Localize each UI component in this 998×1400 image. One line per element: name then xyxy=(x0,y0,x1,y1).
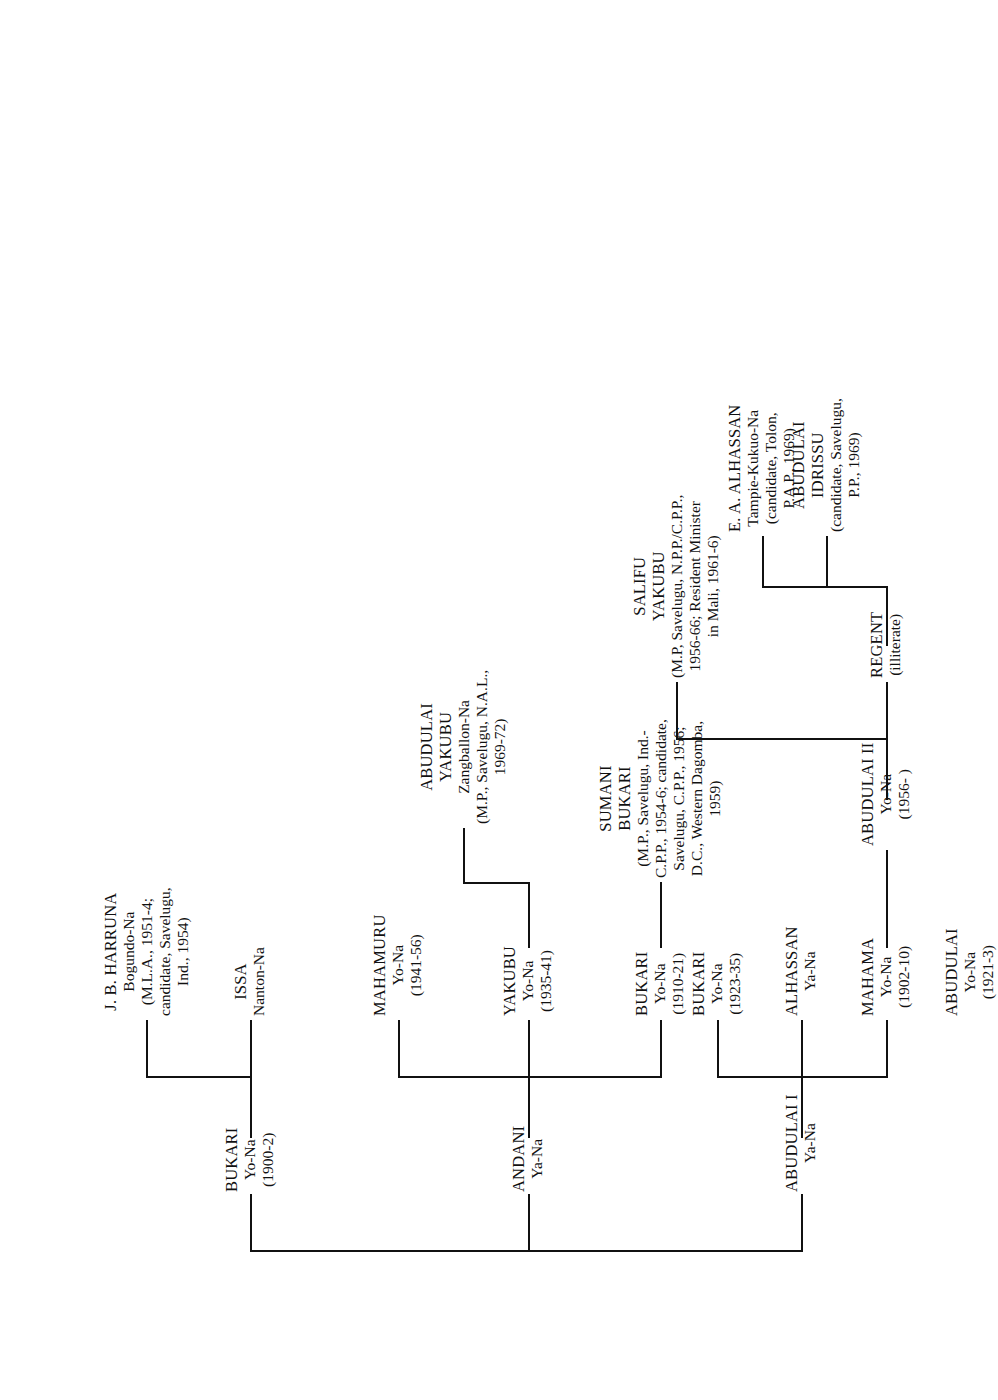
connector-andani-to-mahamuru xyxy=(398,1020,400,1078)
node-dates: (1910-21) xyxy=(670,952,688,1016)
node-salifu-yakubu: SALIFU YAKUBU (M.P, Savelugu, N.P.P./C.P… xyxy=(630,495,722,678)
node-name: REGENT xyxy=(867,612,886,678)
node-name: J. B. HARRUNA xyxy=(101,887,120,1016)
node-name: MAHAMA xyxy=(858,938,877,1016)
connector-abudulai-i-to-alhassan xyxy=(801,1020,803,1078)
node-dates: (1956- ) xyxy=(896,743,914,846)
node-title: Yo-Na xyxy=(878,743,896,846)
node-name: ABUDULAI xyxy=(417,670,436,824)
connector-regent-to-ea-alhassan xyxy=(762,536,764,588)
node-title: Yo-Na xyxy=(709,952,727,1016)
connector-andani-spine xyxy=(398,1076,662,1078)
connector-bukari1900-to-issa xyxy=(250,1020,252,1078)
connector-root-to-abudulai-i xyxy=(801,1194,803,1252)
node-title: Ya-Na xyxy=(802,1094,820,1192)
node-sumani-bukari: SUMANI BUKARI (M.P., Savelugu, Ind.-C.P.… xyxy=(596,719,724,878)
connector-regent-to-idrissu xyxy=(826,536,828,588)
node-name: SUMANI xyxy=(596,719,615,878)
node-detail: (M.P., Savelugu, N.A.L.,1969-72) xyxy=(473,670,509,824)
node-name-2: YAKUBU xyxy=(649,495,668,678)
node-title: Bogundo-Na xyxy=(120,887,138,1016)
connector-root-spine xyxy=(250,1250,802,1252)
node-jb-harruna: J. B. HARRUNA Bogundo-Na (M.L.A., 1951-4… xyxy=(101,887,192,1016)
node-bukari-1923: BUKARI Yo-Na (1923-35) xyxy=(689,952,744,1016)
node-dates: (1941-56) xyxy=(408,914,426,1016)
node-title: Yo-Na xyxy=(652,952,670,1016)
node-dates: (1921-3) xyxy=(980,928,998,1016)
node-title: Yo-Na xyxy=(962,928,980,1016)
node-name: BUKARI xyxy=(689,952,708,1016)
node-detail: (M.P, Savelugu, N.P.P./C.P.P.,1956-66; R… xyxy=(668,495,722,678)
node-abudulai-ii: ABUDULAI II Yo-Na (1956- ) xyxy=(858,743,913,846)
node-title: Ya-Na xyxy=(802,926,820,1016)
node-title: Yo-Na xyxy=(242,1128,260,1192)
node-abudulai-1921: ABUDULAI Yo-Na (1921-3) xyxy=(942,928,997,1016)
node-name-2: IDRISSU xyxy=(808,398,827,532)
node-abudulai-idrissu: ABUDULAI IDRISSU (candidate, Savelugu,P.… xyxy=(789,398,863,532)
node-title: Tampie-Kukuo-Na xyxy=(745,405,763,533)
node-name: ANDANI xyxy=(509,1126,528,1192)
connector-yakubu1935-out xyxy=(528,882,530,948)
node-andani: ANDANI Ya-Na xyxy=(509,1126,546,1192)
node-regent: REGENT (illiterate) xyxy=(867,612,904,678)
node-name-2: BUKARI xyxy=(615,719,634,878)
node-detail: (candidate, Tolon,P.A.P., 1969) xyxy=(763,405,799,533)
connector-bukari1900-spine xyxy=(146,1076,252,1078)
connector-regent-stem xyxy=(826,586,888,588)
connector-bukari1910-to-sumani xyxy=(660,882,662,948)
node-abudulai-i: ABUDULAI I Ya-Na xyxy=(782,1094,819,1192)
node-name: ALHASSAN xyxy=(782,926,801,1016)
connector-yakubu1935-drop xyxy=(463,882,530,884)
node-abudulai-yakubu: ABUDULAI YAKUBU Zangballon-Na (M.P., Sav… xyxy=(417,670,509,824)
node-name: ISSA xyxy=(231,947,250,1016)
node-name: E. A. ALHASSAN xyxy=(725,405,744,533)
node-title: Yo-Na xyxy=(390,914,408,1016)
node-detail: (candidate, Savelugu,P.P., 1969) xyxy=(827,398,863,532)
node-mahamuru: MAHAMURU Yo-Na (1941-56) xyxy=(370,914,425,1016)
connector-andani-to-yakubu1935 xyxy=(528,1020,530,1078)
node-name-2: YAKUBU xyxy=(436,670,455,824)
connector-abudulai-ii-to-regent xyxy=(886,682,888,740)
connector-root-to-bukari1900 xyxy=(250,1194,252,1252)
node-title: Nanton-Na xyxy=(251,947,269,1016)
connector-abudulai-i-to-bukari1923 xyxy=(717,1020,719,1078)
node-name: ABUDULAI II xyxy=(858,743,877,846)
node-name: MAHAMURU xyxy=(370,914,389,1016)
connector-bukari1900-to-harruna xyxy=(146,1020,148,1078)
node-detail: (M.P., Savelugu, Ind.-C.P.P., 1954-6; ca… xyxy=(634,719,724,878)
node-dates: (1923-35) xyxy=(727,952,745,1016)
connector-root-to-andani xyxy=(528,1194,530,1252)
node-mahama: MAHAMA Yo-Na (1902-10) xyxy=(858,938,913,1016)
node-dates: (1900-2) xyxy=(260,1128,278,1192)
connector-andani-to-bukari1910 xyxy=(660,1020,662,1078)
node-name: SALIFU xyxy=(630,495,649,678)
connector-yakubu1935-to-abudulai-yakubu xyxy=(463,828,465,884)
node-detail: (illiterate) xyxy=(887,612,905,678)
node-title: Zangballon-Na xyxy=(455,670,473,824)
connector-abudulai1921-to-abudulai-ii xyxy=(886,850,888,948)
node-dates: (1935-41) xyxy=(538,946,556,1016)
node-bukari-1900: BUKARI Yo-Na (1900-2) xyxy=(222,1128,277,1192)
node-alhassan: ALHASSAN Ya-Na xyxy=(782,926,819,1016)
node-name: ABUDULAI xyxy=(942,928,961,1016)
node-bukari-1910: BUKARI Yo-Na (1910-21) xyxy=(632,952,687,1016)
node-name: BUKARI xyxy=(222,1128,241,1192)
node-title: Yo-Na xyxy=(878,938,896,1016)
connector-abudulai-i-to-mahama xyxy=(886,1020,888,1078)
node-yakubu-1935: YAKUBU Yo-Na (1935-41) xyxy=(500,946,555,1016)
node-dates: (1902-10) xyxy=(896,938,914,1016)
node-title: Ya-Na xyxy=(529,1126,547,1192)
node-name: YAKUBU xyxy=(500,946,519,1016)
node-ea-alhassan: E. A. ALHASSAN Tampie-Kukuo-Na (candidat… xyxy=(725,405,798,533)
node-name: BUKARI xyxy=(632,952,651,1016)
node-issa: ISSA Nanton-Na xyxy=(231,947,268,1016)
node-detail: (M.L.A., 1951-4;candidate, Savelugu,Ind.… xyxy=(138,887,192,1016)
node-name: ABUDULAI I xyxy=(782,1094,801,1192)
node-title: Yo-Na xyxy=(520,946,538,1016)
